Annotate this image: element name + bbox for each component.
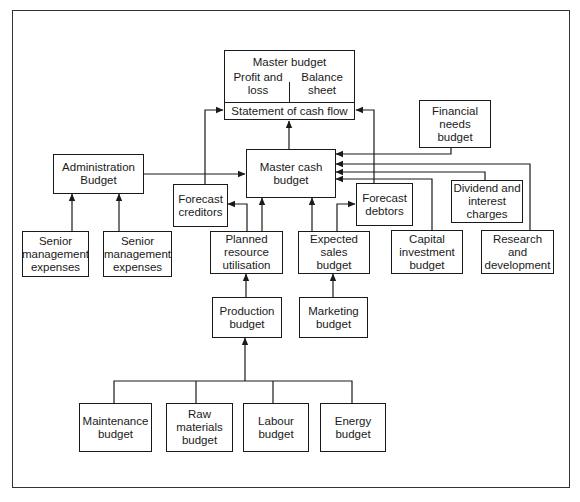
senior-management-expenses-box-2: Senior management expenses: [103, 231, 172, 277]
marketing-budget-box: Marketing budget: [299, 297, 368, 338]
dividend-interest-box: Dividend and interest charges: [451, 180, 523, 223]
expected-sales-budget-box: Expected sales budget: [298, 231, 370, 274]
energy-budget-box: Energy budget: [320, 403, 386, 452]
administration-budget-box: Administration Budget: [53, 154, 144, 194]
senior-management-expenses-box-1: Senior management expenses: [22, 231, 89, 277]
forecast-creditors-box: Forecast creditors: [173, 184, 228, 227]
section-divider: [289, 82, 290, 102]
master-budget-title: Master budget: [225, 56, 354, 69]
labour-budget-box: Labour budget: [243, 403, 309, 452]
master-cash-budget-box: Master cash budget: [246, 149, 336, 198]
planned-resource-utilisation-box: Planned resource utilisation: [210, 231, 283, 274]
balance-sheet-section: Balance sheet: [291, 71, 353, 97]
master-budget-box: Master budget Profit and loss Balance sh…: [224, 50, 355, 120]
maintenance-budget-box: Maintenance budget: [79, 403, 152, 452]
financial-needs-budget-box: Financial needs budget: [419, 100, 491, 148]
section-divider: [225, 102, 354, 103]
research-development-box: Research and development: [481, 230, 554, 274]
forecast-debtors-box: Forecast debtors: [356, 183, 413, 226]
statement-of-cash-flow-section: Statement of cash flow: [225, 105, 354, 118]
raw-materials-budget-box: Raw materials budget: [166, 403, 233, 452]
profit-and-loss-section: Profit and loss: [227, 71, 289, 97]
production-budget-box: Production budget: [212, 297, 282, 338]
capital-investment-budget-box: Capital investment budget: [391, 230, 463, 274]
